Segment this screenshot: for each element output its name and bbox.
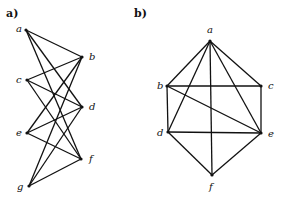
- edge-g-f: [29, 159, 81, 186]
- panel-label: b): [134, 7, 147, 20]
- vertex-e: [25, 131, 28, 134]
- vertex-c: [259, 84, 262, 87]
- edge-e-f: [212, 133, 261, 175]
- edge-b-e: [167, 86, 261, 133]
- edge-a-c: [210, 41, 261, 86]
- vertex-label: a: [207, 24, 213, 35]
- vertex-label: b: [89, 51, 95, 62]
- vertex-d: [80, 105, 83, 108]
- edge-c-d: [27, 80, 82, 107]
- graph-panel-a: abcdefga): [6, 7, 95, 192]
- vertex-c: [25, 78, 28, 81]
- vertex-label: f: [88, 153, 95, 164]
- vertex-f: [210, 173, 213, 176]
- vertex-label: e: [268, 128, 274, 139]
- vertex-label: c: [268, 80, 274, 91]
- vertex-label: f: [208, 181, 215, 192]
- vertex-f: [79, 157, 82, 160]
- graph-figure: abcdefga)abcdefb): [0, 0, 281, 197]
- vertex-label: c: [16, 74, 22, 85]
- edge-a-b: [167, 41, 210, 86]
- edge-a-b: [26, 30, 82, 57]
- edge-a-e: [210, 41, 261, 133]
- vertex-d: [166, 130, 169, 133]
- vertex-a: [208, 39, 211, 42]
- vertex-b: [165, 84, 168, 87]
- edge-b-d: [167, 86, 168, 132]
- vertex-g: [27, 184, 30, 187]
- vertex-b: [80, 55, 83, 58]
- vertex-label: a: [16, 23, 22, 34]
- vertex-a: [24, 28, 27, 31]
- vertex-label: e: [16, 127, 22, 138]
- vertex-e: [259, 131, 262, 134]
- vertex-label: d: [89, 101, 95, 112]
- edge-d-e: [168, 132, 261, 133]
- vertex-label: d: [157, 127, 163, 138]
- graph-panel-b: abcdefb): [134, 7, 274, 192]
- vertex-label: b: [157, 80, 163, 91]
- vertex-label: g: [17, 181, 23, 192]
- graph-drawing: abcdefga)abcdefb): [0, 0, 281, 197]
- edge-d-f: [168, 132, 212, 175]
- panel-label: a): [6, 7, 18, 20]
